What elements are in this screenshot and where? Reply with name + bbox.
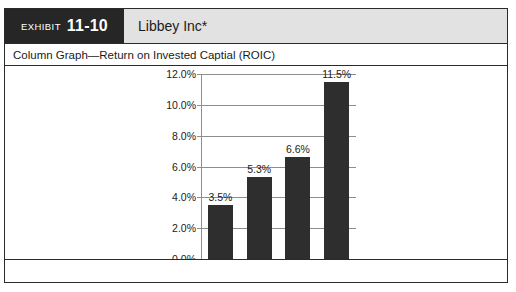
- y-axis-tick-label: 6.0%: [152, 161, 196, 173]
- exhibit-frame: EXHIBIT 11-10 Libbey Inc* Column Graph—R…: [4, 8, 508, 283]
- y-axis-tick-label: 8.0%: [152, 130, 196, 142]
- x-axis-labels: 2005200820092010: [201, 66, 356, 260]
- exhibit-company-name: Libbey Inc*: [138, 9, 207, 43]
- exhibit-footnote-row: [5, 260, 507, 281]
- exhibit-header: EXHIBIT 11-10 Libbey Inc*: [5, 9, 507, 44]
- y-axis-tick-label: 2.0%: [152, 222, 196, 234]
- exhibit-label: EXHIBIT: [21, 21, 61, 32]
- chart-area: 3.5%5.3%6.6%11.5% 0.0%2.0%4.0%6.0%8.0%10…: [5, 66, 507, 260]
- exhibit-number: 11-10: [67, 17, 108, 35]
- chart-title: Column Graph—Return on Invested Captial …: [13, 49, 275, 61]
- y-axis-tick-label: 10.0%: [152, 99, 196, 111]
- exhibit-tab: EXHIBIT 11-10: [5, 9, 124, 43]
- exhibit-subtitle-row: Column Graph—Return on Invested Captial …: [5, 44, 507, 66]
- y-axis-tick-label: 0.0%: [152, 253, 196, 260]
- y-axis-tick-label: 4.0%: [152, 191, 196, 203]
- y-axis-tick-label: 12.0%: [152, 68, 196, 80]
- y-axis-labels: 0.0%2.0%4.0%6.0%8.0%10.0%12.0%: [150, 66, 196, 260]
